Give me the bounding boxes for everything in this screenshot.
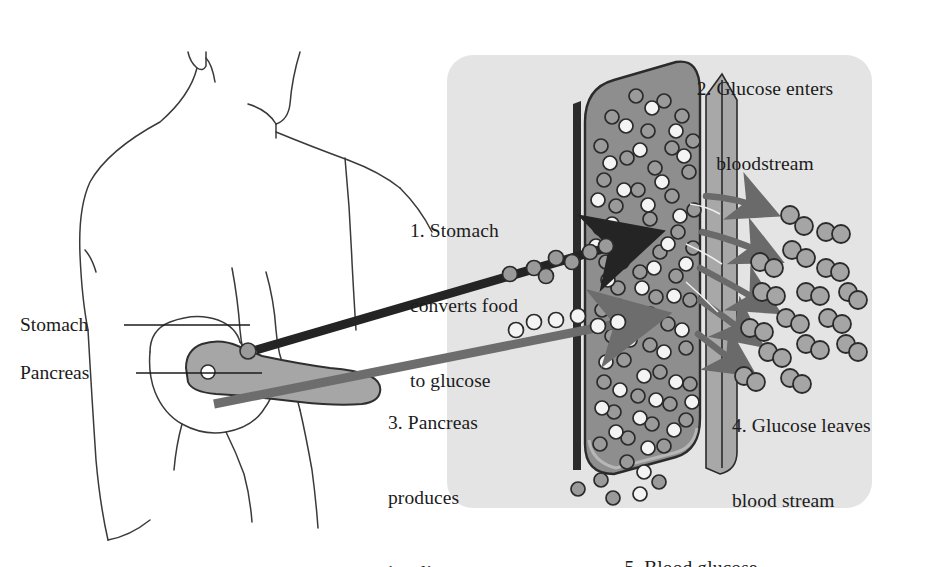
- stomach-label: Stomach: [20, 313, 88, 337]
- step-3-line-3: insulin: [388, 560, 478, 567]
- step-3-label: 3. Pancreas produces insulin: [388, 360, 478, 567]
- vessel-wall-left-outer: [573, 101, 581, 470]
- step-2-line-1: 2. Glucose enters: [639, 76, 891, 101]
- cell: [817, 223, 850, 243]
- step-5-line-1: 5. Blood glucose: [560, 555, 822, 567]
- diagram-canvas: 1. Stomach converts food to glucose 2. G…: [0, 0, 937, 567]
- glucose-source-dot: [240, 343, 256, 359]
- step-2-line-2: bloodstream: [639, 151, 891, 176]
- pancreas-label: Pancreas: [20, 361, 89, 385]
- step-3-line-2: produces: [388, 485, 478, 510]
- step-5-label: 5. Blood glucose levels in balance: [560, 505, 822, 567]
- insulin-source-dot: [201, 365, 215, 379]
- body-outline-illustration: [80, 52, 432, 540]
- step-4-line-1: 4. Glucose leaves: [732, 413, 871, 438]
- step-2-label: 2. Glucose enters bloodstream: [639, 26, 891, 226]
- step-1-line-1: 1. Stomach: [410, 218, 518, 243]
- step-1-line-2: converts food: [410, 293, 518, 318]
- step-3-line-1: 3. Pancreas: [388, 410, 478, 435]
